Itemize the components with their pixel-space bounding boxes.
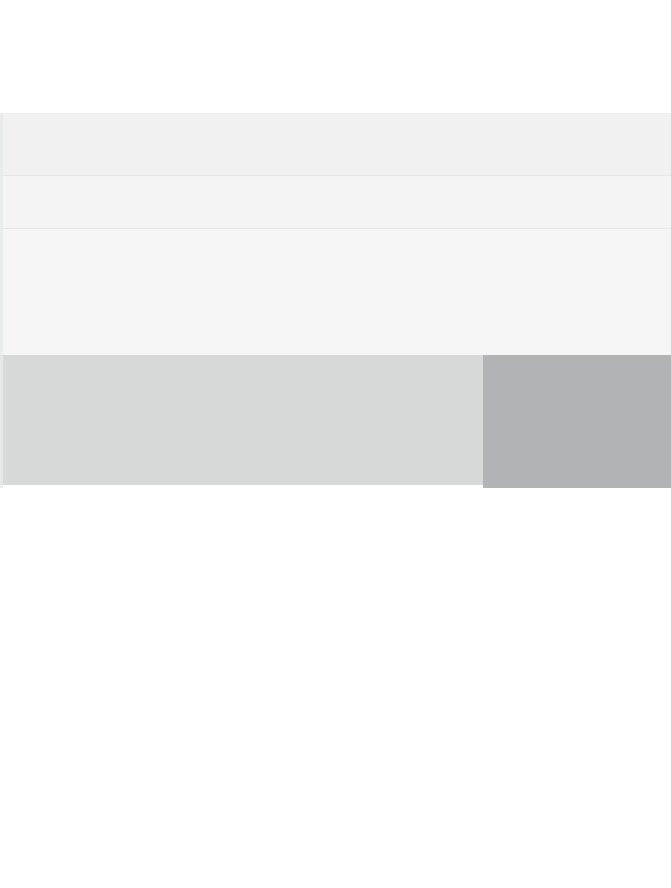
blank-lower-area: [0, 488, 671, 888]
left-gutter-shading: [0, 113, 3, 488]
top-margin: [0, 0, 671, 113]
panel-row-c: [0, 229, 671, 355]
page-canvas: [0, 0, 671, 888]
panel-row-a: [0, 113, 671, 175]
gray-block-dark: [483, 355, 671, 488]
content-panel: [0, 113, 671, 355]
panel-row-b: [0, 176, 671, 228]
